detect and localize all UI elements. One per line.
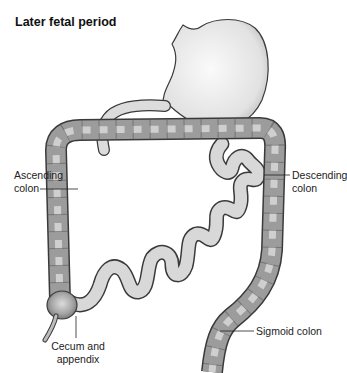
label-line: colon <box>14 182 63 195</box>
label-line: Descending <box>292 169 347 182</box>
label-line: colon <box>292 182 347 195</box>
label-line: appendix <box>50 353 106 366</box>
label-line: Ascending <box>14 169 63 182</box>
label-ascending-colon: Ascending colon <box>14 169 63 195</box>
small-intestine <box>70 144 258 305</box>
label-sigmoid-colon: Sigmoid colon <box>256 325 322 338</box>
label-line: Cecum and <box>50 340 106 353</box>
label-cecum-appendix: Cecum and appendix <box>50 340 106 366</box>
stomach <box>163 20 268 129</box>
label-descending-colon: Descending colon <box>292 169 347 195</box>
